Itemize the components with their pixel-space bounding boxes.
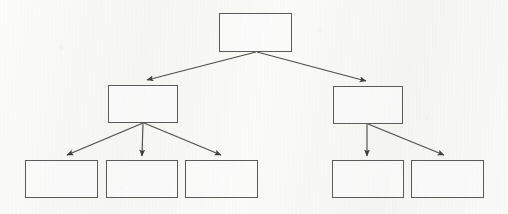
diagram-canvas [0, 0, 508, 214]
connector-arrow [67, 123, 143, 155]
node-box-root[interactable] [219, 13, 292, 52]
connector-arrow [142, 123, 143, 156]
node-box-mid-1[interactable] [108, 85, 178, 123]
node-box-mid-2[interactable] [333, 86, 403, 124]
connector-arrow [257, 52, 366, 81]
node-box-leaf-2[interactable] [106, 160, 178, 198]
connector-arrow [144, 123, 221, 155]
connector-arrow [147, 52, 256, 80]
node-box-leaf-5[interactable] [411, 160, 484, 198]
node-box-leaf-1[interactable] [25, 160, 98, 198]
node-box-leaf-4[interactable] [332, 160, 404, 198]
node-box-leaf-3[interactable] [185, 160, 258, 198]
connector-arrow [368, 124, 444, 155]
